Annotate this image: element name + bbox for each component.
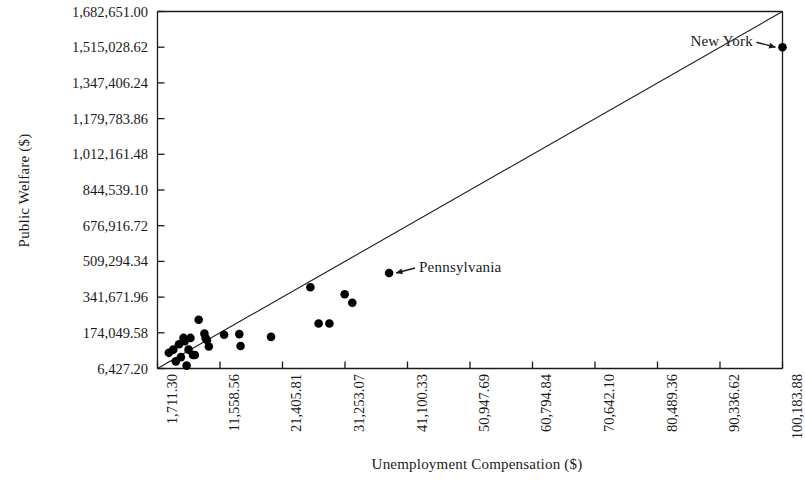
annotation-label-pennsylvania: Pennsylvania xyxy=(419,260,501,275)
x-axis-title: Unemployment Compensation ($) xyxy=(157,456,797,473)
annotation-label-new-york: New York xyxy=(690,34,752,49)
